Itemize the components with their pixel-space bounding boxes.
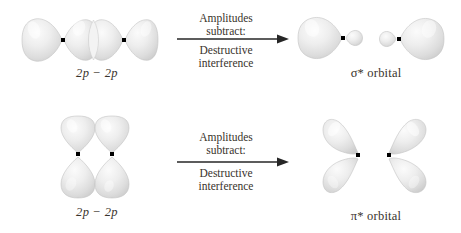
right-p-orbital [95,116,129,198]
outer-left-lobe [22,19,62,62]
large-lobe-left-atom [298,17,342,58]
nucleus-dot [341,36,345,40]
nucleus-dot [76,152,80,156]
nucleus-dot [356,153,360,157]
outer-right-lobe [125,20,158,61]
nucleus-dot [387,153,391,157]
left-p-orbital [61,116,95,198]
molecular-orbital-diagram: 2p − 2p Amplitudes subtract: Destructive… [0,0,461,233]
right-atom-lobes [389,119,426,192]
nucleus-dot [110,152,114,156]
p-orbitals-side-by-side-figure [53,114,141,201]
bottom-reactant-label: 2p − 2p [17,205,177,220]
pi-star-orbital-figure [320,116,432,196]
top-arrow-label-below: Destructive interference [178,44,274,70]
sigma-star-orbital-figure [296,12,452,64]
nucleus-dot [397,37,401,41]
top-product-label: σ* orbital [296,66,456,81]
nucleus-dot [122,38,126,42]
small-lobe-left-atom [346,30,363,45]
p-orbitals-end-on-figure [20,13,160,67]
nucleus-dot [61,38,65,42]
large-lobe-right-atom [400,18,444,59]
bottom-arrow-label-below: Destructive interference [178,167,274,193]
small-lobe-right-atom [380,31,397,46]
left-atom-lobes [323,119,358,192]
top-reactant-label: 2p − 2p [17,66,177,81]
bottom-arrow-label-above: Amplitudes subtract: [178,131,274,157]
bottom-product-label: π* orbital [296,209,456,224]
